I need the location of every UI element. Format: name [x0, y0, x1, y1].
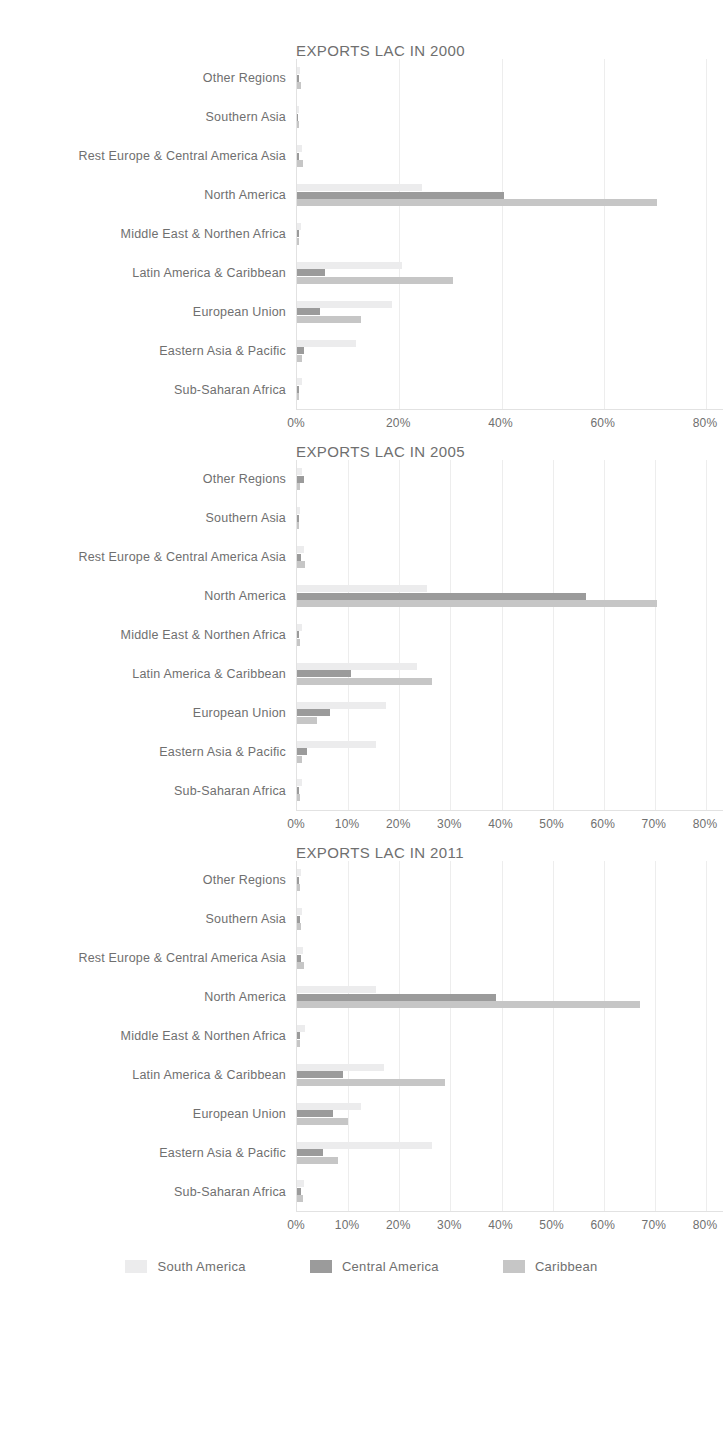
bar: [297, 962, 304, 969]
bar: [297, 554, 301, 561]
x-axis: 0%20%40%60%80%: [296, 409, 723, 439]
x-tick-label: 50%: [539, 1218, 564, 1232]
bar-group: [297, 460, 723, 499]
x-tick-label: 10%: [335, 817, 360, 831]
category-label: Other Regions: [203, 472, 286, 486]
bar-group: [297, 370, 723, 409]
bar: [297, 347, 304, 354]
category-label: Sub-Saharan Africa: [174, 383, 286, 397]
x-tick-label: 60%: [590, 817, 615, 831]
bar: [297, 340, 356, 347]
category-label: Latin America & Caribbean: [132, 667, 286, 681]
bar: [297, 1149, 323, 1156]
category-axis: Other RegionsSouthern AsiaRest Europe & …: [0, 861, 296, 1211]
bar: [297, 355, 302, 362]
category-label: North America: [204, 188, 286, 202]
category-label: Sub-Saharan Africa: [174, 1185, 286, 1199]
chart-title: EXPORTS LAC IN 2000: [296, 42, 723, 59]
bar: [297, 748, 307, 755]
category-label: Eastern Asia & Pacific: [159, 344, 286, 358]
bar: [297, 717, 317, 724]
x-tick-label: 70%: [642, 1218, 667, 1232]
bar: [297, 75, 299, 82]
bar-group: [297, 1172, 723, 1211]
bar: [297, 515, 299, 522]
bar: [297, 121, 299, 128]
plot-canvas: [296, 861, 723, 1211]
bar: [297, 779, 302, 786]
x-tick-label: 20%: [386, 1218, 411, 1232]
bar: [297, 794, 300, 801]
plot-area: Other RegionsSouthern AsiaRest Europe & …: [0, 59, 723, 409]
bar: [297, 82, 301, 89]
bar: [297, 908, 302, 915]
bar: [297, 1071, 343, 1078]
bar-group: [297, 59, 723, 98]
bar: [297, 1001, 640, 1008]
x-tick-label: 10%: [335, 1218, 360, 1232]
axis-line: [296, 1211, 723, 1212]
bar: [297, 600, 657, 607]
x-tick-label: 0%: [287, 1218, 305, 1232]
x-tick-label: 80%: [693, 817, 718, 831]
chart-block-2011: EXPORTS LAC IN 2011 Other RegionsSouther…: [0, 840, 723, 1241]
legend-item[interactable]: Caribbean: [503, 1259, 598, 1274]
chart-block-2005: EXPORTS LAC IN 2005 Other RegionsSouther…: [0, 439, 723, 840]
category-label: European Union: [193, 1107, 286, 1121]
x-tick-label: 40%: [488, 1218, 513, 1232]
bar-group: [297, 253, 723, 292]
category-label: Other Regions: [203, 71, 286, 85]
bar-group: [297, 215, 723, 254]
bar: [297, 476, 304, 483]
bar: [297, 238, 299, 245]
plot-canvas: [296, 460, 723, 810]
bar: [297, 192, 504, 199]
category-label: Southern Asia: [206, 912, 286, 926]
bar: [297, 561, 305, 568]
category-label: Middle East & Northen Africa: [121, 1029, 286, 1043]
plot-area: Other RegionsSouthern AsiaRest Europe & …: [0, 460, 723, 810]
x-tick-label: 60%: [590, 416, 615, 430]
x-tick-label: 20%: [386, 817, 411, 831]
bar-group: [297, 1094, 723, 1133]
bar: [297, 1110, 333, 1117]
bar: [297, 869, 301, 876]
x-axis: 0%10%20%30%40%50%60%70%80%: [296, 1211, 723, 1241]
bar: [297, 1025, 305, 1032]
bar: [297, 262, 402, 269]
legend: South AmericaCentral AmericaCaribbean: [0, 1259, 723, 1274]
bar: [297, 923, 301, 930]
category-label: North America: [204, 990, 286, 1004]
axis-line: [296, 810, 723, 811]
category-label: Sub-Saharan Africa: [174, 784, 286, 798]
x-tick-label: 20%: [386, 416, 411, 430]
x-tick-label: 80%: [693, 1218, 718, 1232]
bar: [297, 916, 300, 923]
legend-item[interactable]: Central America: [310, 1259, 439, 1274]
category-label: Latin America & Caribbean: [132, 266, 286, 280]
bar: [297, 955, 301, 962]
bar: [297, 702, 386, 709]
chart-block-2000: EXPORTS LAC IN 2000 Other RegionsSouther…: [0, 0, 723, 439]
legend-swatch-icon: [310, 1260, 332, 1273]
category-label: Middle East & Northen Africa: [121, 628, 286, 642]
x-tick-label: 30%: [437, 817, 462, 831]
category-label: European Union: [193, 305, 286, 319]
bar-rows: [297, 59, 723, 409]
category-label: European Union: [193, 706, 286, 720]
bar-rows: [297, 460, 723, 810]
bar: [297, 230, 299, 237]
category-axis: Other RegionsSouthern AsiaRest Europe & …: [0, 59, 296, 409]
category-axis: Other RegionsSouthern AsiaRest Europe & …: [0, 460, 296, 810]
bar: [297, 67, 300, 74]
bar: [297, 184, 422, 191]
exports-lac-figure: EXPORTS LAC IN 2000 Other RegionsSouther…: [0, 0, 723, 1443]
bar: [297, 1079, 445, 1086]
bar: [297, 884, 300, 891]
bar: [297, 1103, 361, 1110]
legend-item[interactable]: South America: [125, 1259, 245, 1274]
x-tick-label: 50%: [539, 817, 564, 831]
bar: [297, 223, 301, 230]
bar: [297, 678, 432, 685]
legend-label: Caribbean: [535, 1259, 598, 1274]
